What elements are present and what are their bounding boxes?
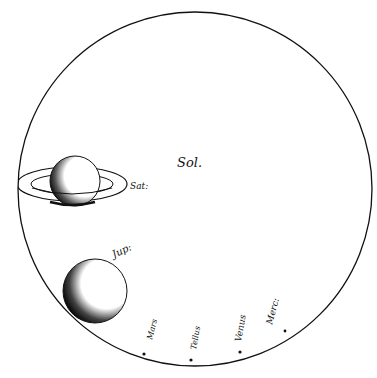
saturn-planet: [17, 156, 127, 206]
jupiter-label: Jup:: [108, 241, 133, 260]
solar-size-diagram: Sol. Sat: Jup: Mars Tellus Venus Merc:: [0, 0, 377, 378]
sun-label: Sol.: [177, 155, 202, 170]
mars-planet: [142, 352, 145, 355]
mercury-planet: [284, 330, 287, 333]
earth-label: Tellus: [189, 325, 202, 350]
earth-planet: [189, 358, 192, 361]
venus-planet: [238, 350, 241, 353]
venus-label: Venus: [233, 313, 248, 342]
saturn-label: Sat:: [130, 181, 148, 191]
mercury-label: Merc:: [264, 297, 281, 327]
mars-label: Mars: [145, 318, 159, 341]
jupiter-planet: [63, 259, 127, 323]
